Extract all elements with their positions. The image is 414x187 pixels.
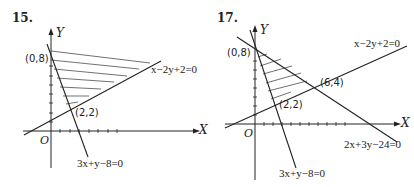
figure-17: 17. Y X O (0,8) (6,4) (2,2) x−2y+2=0 2x+… xyxy=(207,0,414,187)
y-axis-arrow-icon xyxy=(253,25,258,32)
point-label: (2,2) xyxy=(279,100,303,110)
y-axis-arrow-icon xyxy=(49,28,54,35)
point-label: (6,4) xyxy=(320,78,344,88)
x-axis-arrow-icon xyxy=(394,122,401,127)
x-axis-label: X xyxy=(401,117,410,129)
y-axis-label: Y xyxy=(260,24,268,36)
line-3x-y-8 xyxy=(47,44,88,157)
figure-15: 15. Y X O (0,8) (2,2) x−2y+2=0 3x+y−8=0 xyxy=(0,0,207,187)
ticks xyxy=(253,61,345,126)
equation-label: x−2y+2=0 xyxy=(151,64,197,75)
figure-17-graph xyxy=(207,0,414,187)
line-x-2y-2 xyxy=(24,61,161,135)
y-axis-label: Y xyxy=(56,27,64,39)
figure-number: 15. xyxy=(12,12,33,24)
point-label: (0,8) xyxy=(227,48,251,58)
point-label: (2,2) xyxy=(75,108,99,118)
equation-label: 2x+3y−24=0 xyxy=(344,139,401,150)
line-2x-3y-24 xyxy=(237,37,397,142)
equation-label: 3x+y−8=0 xyxy=(77,158,123,169)
origin-label: O xyxy=(40,135,49,146)
figure-number: 17. xyxy=(217,12,238,24)
equation-label: 3x+y−8=0 xyxy=(279,168,325,179)
line-x-2y-2 xyxy=(225,46,407,128)
point-label: (0,8) xyxy=(25,54,49,64)
equation-label: x−2y+2=0 xyxy=(354,38,400,49)
origin-label: O xyxy=(244,128,253,139)
